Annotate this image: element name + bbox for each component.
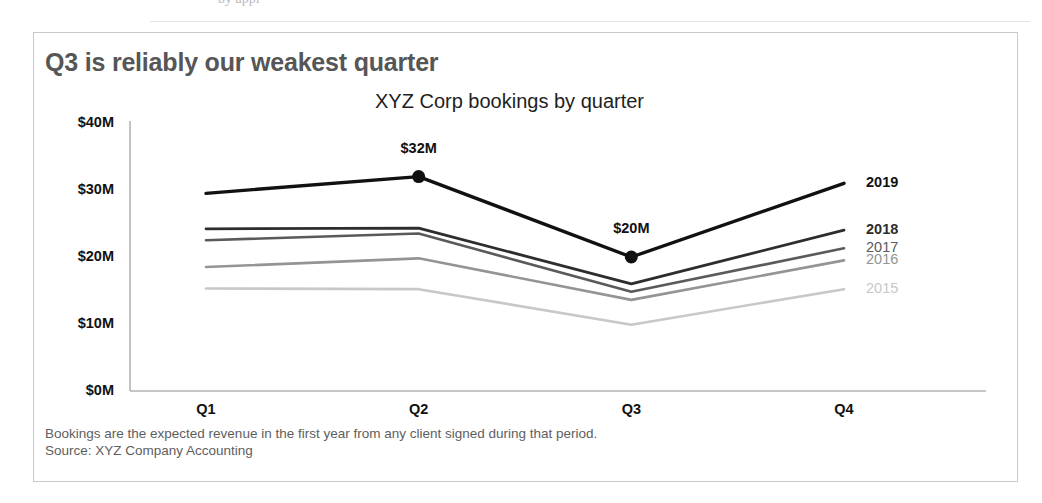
artifact-text-right: ———— xyxy=(610,0,666,7)
value-label-2019-Q3: $20M xyxy=(613,220,649,236)
y-axis-tick-0M: $0M xyxy=(56,382,114,398)
data-point-2019-Q2 xyxy=(412,170,425,183)
series-line-2019 xyxy=(206,177,844,257)
footnote: Bookings are the expected revenue in the… xyxy=(45,425,597,459)
artifact-text-left: by appl xyxy=(218,0,260,7)
artifact-rule xyxy=(150,21,1030,22)
plot-area: $0M$10M$20M$30M$40M Q1Q2Q3Q4 20192018201… xyxy=(34,33,1019,483)
y-axis-tick-30M: $30M xyxy=(56,181,114,197)
y-axis-tick-10M: $10M xyxy=(56,315,114,331)
x-axis-tick-Q4: Q4 xyxy=(804,401,884,417)
chart-figure: Q3 is reliably our weakest quarter XYZ C… xyxy=(33,32,1018,482)
x-axis-tick-Q1: Q1 xyxy=(166,401,246,417)
series-line-2016 xyxy=(206,258,844,300)
value-label-2019-Q2: $32M xyxy=(401,140,437,156)
footnote-line-2: Source: XYZ Company Accounting xyxy=(45,442,597,459)
y-axis-tick-40M: $40M xyxy=(56,114,114,130)
x-axis-tick-Q3: Q3 xyxy=(591,401,671,417)
x-axis-tick-Q2: Q2 xyxy=(379,401,459,417)
series-label-2019: 2019 xyxy=(866,174,898,190)
footnote-line-1: Bookings are the expected revenue in the… xyxy=(45,425,597,442)
series-label-2018: 2018 xyxy=(866,221,898,237)
page-scan-artifact: by appl ———— xyxy=(0,0,1042,26)
data-point-2019-Q3 xyxy=(625,251,638,264)
y-axis-tick-20M: $20M xyxy=(56,248,114,264)
series-line-2015 xyxy=(206,288,844,324)
series-label-2015: 2015 xyxy=(866,280,898,296)
series-label-2016: 2016 xyxy=(866,251,898,267)
